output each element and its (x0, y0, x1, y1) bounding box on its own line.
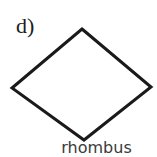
figure-panel: d) rhombus (0, 0, 157, 157)
shape-caption-label: rhombus (0, 138, 157, 157)
rhombus-shape-svg (0, 0, 157, 157)
rhombus-outline (12, 29, 151, 140)
